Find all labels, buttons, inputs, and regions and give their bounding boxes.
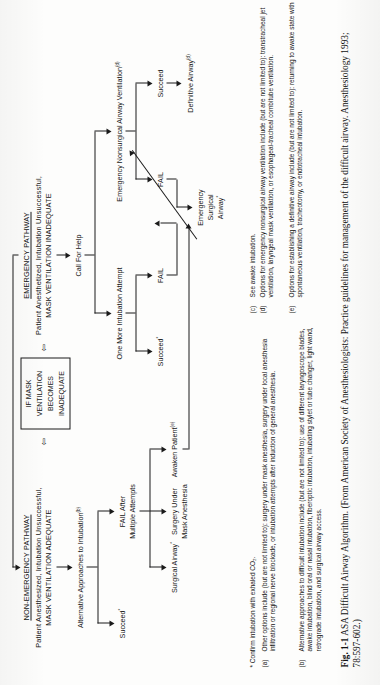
node-emergency-surgical-airway-line2: Surgical <box>206 194 214 220</box>
connector-top-bracket-right-stem <box>12 254 18 255</box>
connector-fail-left-split <box>149 449 150 567</box>
footnote-c-text: See awake intubation. <box>248 0 256 297</box>
figure-caption-label: Fig. 1-1 <box>339 637 349 667</box>
node-fail-emergency: FAIL <box>156 268 164 283</box>
footnote-marker: * <box>248 664 255 667</box>
emergency-pathway-subtitle-2: MASK VENTILATION INADEQUATE <box>44 193 52 318</box>
arrow-down-to-succeed-ensa <box>147 80 152 86</box>
connector-one-more-attempt-split <box>135 275 136 351</box>
connector-to-succeed-left <box>97 622 110 623</box>
footnote-c: (c) See awake intubation. <box>248 0 256 313</box>
arrow-down-to-one-more-attempt <box>106 310 111 316</box>
arrow-down-to-succeed-left <box>109 620 114 626</box>
footnote-d-text: Options for emergency nonsurgical airway… <box>258 0 275 297</box>
connector-top-bracket <box>12 255 13 567</box>
arrow-down-to-succeed-emergency <box>147 348 152 354</box>
connector-esa-riser <box>160 222 176 223</box>
arrow-up-to-emergency-surgical-airway <box>154 220 159 226</box>
connector-to-fail-ensa <box>135 178 148 179</box>
node-surgery-under-mask-line1: Surgery Under <box>170 488 178 535</box>
scanned-figure-page: NON-EMERGENCY PATHWAY Patient Anesthesiz… <box>0 0 380 685</box>
footnote-b-text: Alternative approaches to difficult intu… <box>297 315 322 651</box>
arrow-down-to-definitive-airway <box>176 80 181 86</box>
node-call-for-help: Call For Help <box>74 234 82 276</box>
nonemergency-pathway-subtitle-2: MASK VENTILATION ADEQUATE <box>44 509 52 625</box>
connector-ensa-split <box>135 83 136 179</box>
transition-box-line1: IF MASK <box>24 357 33 429</box>
arrow-down-to-awaken-patient <box>161 446 166 452</box>
footnote-e-marker: (e) <box>287 305 295 313</box>
node-succeed-ensa: Succeed <box>156 69 164 97</box>
arrow-diagonal-to-ensa <box>127 148 135 156</box>
connector-callforhelp-stem <box>84 254 94 255</box>
arrow-down-to-fail-emergency <box>147 272 152 278</box>
footnote-text: Confirm intubation with exhaled CO₂. <box>248 556 255 663</box>
footnote-a-text: Other options include (but are not limit… <box>260 315 277 651</box>
transition-box-line2: VENTILATION <box>35 357 44 429</box>
node-surgical-airway-left: Surgical Airway* <box>170 542 178 593</box>
connector-to-fail-emergency <box>135 274 148 275</box>
transition-box-line4: INADEQUATE <box>57 357 66 429</box>
connector-fail-ensa-stem <box>166 178 176 179</box>
emergency-pathway-subtitle-1: Patient Anesthetized, Intubation Unsucce… <box>34 176 42 335</box>
footnote-b-marker: (b) <box>297 659 305 667</box>
footnote-confirm-intubation: * Confirm intubation with exhaled CO₂. <box>248 331 256 667</box>
connector-to-one-more-attempt <box>94 312 107 313</box>
rotated-canvas: NON-EMERGENCY PATHWAY Patient Anesthesiz… <box>0 0 380 685</box>
connector-succeed-ensa-stem <box>166 82 177 83</box>
node-one-more-attempt: One More Intubation Attempt <box>115 267 123 359</box>
footnote-e: (e) Options for establishing a definitiv… <box>287 0 304 313</box>
connector-one-more-attempt-stem <box>125 312 135 313</box>
node-fail-after-multiple-line1: FAIL After <box>118 495 126 526</box>
footnote-a-marker: (a) <box>260 659 268 667</box>
connector-nonemergency-to-alternatives <box>56 566 68 567</box>
arrow-down-to-call-for-help <box>65 252 70 258</box>
connector-to-succeed-ensa <box>135 82 148 83</box>
figure-caption-text: ASA Difficult Airway Algorithm. (From Am… <box>339 32 361 667</box>
connector-emergency-to-callforhelp <box>56 254 66 255</box>
footnote-d-marker: (d) <box>258 305 266 313</box>
arrow-down-to-alternatives <box>67 564 72 570</box>
nonemergency-pathway-subtitle-1: Patient Anesthesized, Intubation Unsucce… <box>34 487 42 648</box>
transition-box-line3: BECOMES <box>46 357 55 429</box>
node-emergency-nonsurgical-airway-ventilation: Emergency Nonsurgical Airway Ventilation… <box>115 61 123 201</box>
transition-arrow-left-icon: ⇦ <box>38 437 48 445</box>
connector-fail-emergency-stem <box>166 274 176 275</box>
connector-to-succeed-emergency <box>135 350 148 351</box>
figure-caption: Fig. 1-1 ASA Difficult Airway Algorithm.… <box>338 17 363 667</box>
node-surgery-under-mask-line2: Mask Anesthesia <box>180 484 188 538</box>
connector-to-surgery-under-mask <box>149 510 162 511</box>
connector-to-emergency-nonsurgical <box>94 130 107 131</box>
arrow-down-into-nonemergency <box>15 564 20 570</box>
connector-fail-left-stem <box>139 510 149 511</box>
arrow-down-to-emergency-surgical-airway <box>187 204 192 210</box>
arrow-down-to-emergency-nonsurgical <box>106 128 111 134</box>
connector-callforhelp-split <box>94 131 95 313</box>
node-awaken-patient: Awaken Patient(e) <box>170 421 178 476</box>
asa-difficult-airway-algorithm: NON-EMERGENCY PATHWAY Patient Anesthesiz… <box>0 0 380 685</box>
node-emergency-surgical-airway-line1: Emergency <box>196 189 204 225</box>
connector-awaken-riser <box>182 448 188 449</box>
arrow-down-to-surgical-airway-left <box>161 564 166 570</box>
connector-alternatives-stem <box>86 566 97 567</box>
footnote-b: (b) Alternative approaches to difficult … <box>297 315 322 667</box>
footnote-a: (a) Other options include (but are not l… <box>260 315 277 667</box>
node-succeed-left: Succeed* <box>118 608 126 638</box>
connector-to-awaken-patient <box>149 448 162 449</box>
arrow-down-to-surgery-under-mask <box>161 508 166 514</box>
footnote-c-marker: (c) <box>248 305 256 313</box>
connector-fail-emergency-to-esa <box>176 223 177 275</box>
node-alternative-approaches: Alternative Approaches to Intubation(b) <box>76 506 84 627</box>
connector-fail-ensa-drop <box>176 206 188 207</box>
connector-fail-ensa-to-esa <box>176 179 177 207</box>
footnote-d: (d) Options for emergency nonsurgical ai… <box>258 0 275 313</box>
node-succeed-emergency: Succeed* <box>156 336 164 366</box>
node-definitive-airway: Definitive Airway(d) <box>186 54 194 112</box>
connector-to-fail-left <box>97 510 110 511</box>
emergency-pathway-title: EMERGENCY PATHWAY <box>22 212 31 299</box>
connector-diagonal-to-ensa <box>131 149 196 239</box>
connector-ensa-stem <box>125 130 135 131</box>
connector-awaken-to-esa-long <box>188 227 189 449</box>
node-fail-after-multiple-line2: Multiple Attempts <box>128 484 136 539</box>
connector-alternatives-split <box>97 511 98 623</box>
